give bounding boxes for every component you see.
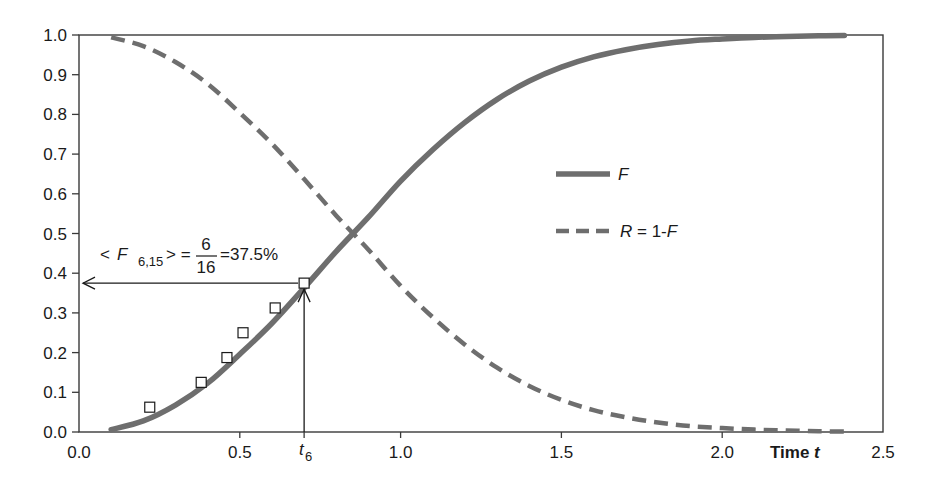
y-tick-label: 0.4 — [43, 264, 67, 283]
y-tick-label: 0.5 — [43, 225, 67, 244]
y-tick-label: 0.1 — [43, 383, 67, 402]
data-point-marker — [270, 303, 280, 313]
y-tick-label: 0.8 — [43, 105, 67, 124]
t6-subscript: 6 — [305, 449, 312, 464]
data-point-marker — [299, 278, 309, 288]
y-tick-label: 0.2 — [43, 344, 67, 363]
svg-text:<: < — [100, 245, 110, 264]
svg-text:16: 16 — [197, 258, 216, 277]
y-tick-label: 0.0 — [43, 423, 67, 442]
y-tick-label: 1.0 — [43, 26, 67, 45]
svg-text:=37.5%: =37.5% — [220, 245, 278, 264]
x-tick-label: 2.5 — [871, 443, 895, 462]
empirical-point-markers — [145, 278, 309, 412]
legend: F R = 1-F — [556, 165, 679, 241]
horizontal-arrow — [83, 277, 298, 289]
y-axis-ticks: 0.00.10.20.30.40.50.60.70.80.91.0 — [43, 26, 79, 442]
fraction-annotation: < F 6,15 > = 6 16 =37.5% — [100, 235, 278, 277]
y-tick-label: 0.7 — [43, 145, 67, 164]
x-tick-label: 0.0 — [67, 443, 91, 462]
vertical-arrow — [298, 289, 310, 432]
svg-text:> =: > = — [166, 245, 191, 264]
y-tick-label: 0.9 — [43, 66, 67, 85]
x-tick-label: 1.0 — [389, 443, 413, 462]
x-tick-label: 0.5 — [228, 443, 252, 462]
data-point-marker — [196, 377, 206, 387]
x-axis-label: Time t — [770, 443, 821, 462]
svg-text:F: F — [117, 245, 129, 264]
y-tick-label: 0.3 — [43, 304, 67, 323]
x-tick-label: 1.5 — [550, 443, 574, 462]
data-point-marker — [222, 353, 232, 363]
data-point-marker — [238, 328, 248, 338]
x-tick-label: 2.0 — [710, 443, 734, 462]
legend-r-label: R = 1-F — [620, 222, 679, 241]
svg-text:6,15: 6,15 — [138, 254, 163, 269]
f-curve-solid — [111, 35, 844, 429]
reliability-chart: 0.00.10.20.30.40.50.60.70.80.91.0 0.00.5… — [0, 0, 927, 486]
y-tick-label: 0.6 — [43, 185, 67, 204]
data-point-marker — [145, 402, 155, 412]
plot-frame — [79, 35, 883, 432]
legend-f-label: F — [618, 165, 630, 184]
svg-text:6: 6 — [201, 235, 210, 254]
